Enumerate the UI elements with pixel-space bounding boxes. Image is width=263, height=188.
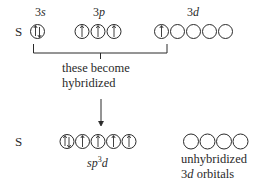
orbital-unhybrid-1	[184, 134, 199, 149]
orbital-sp3d-2	[76, 135, 90, 149]
unhybridized-caption-line2: 3d orbitals	[181, 167, 247, 182]
hybridization-bracket	[34, 44, 168, 59]
element-symbol-top: S	[15, 25, 22, 39]
orbitals-unhybridized-3d	[184, 134, 249, 149]
subshell-label-3d: 3d	[187, 5, 199, 19]
orbital-3p-1	[75, 25, 89, 39]
orbital-unhybrid-4	[233, 134, 248, 149]
bracket-caption-line1: these become	[62, 61, 130, 76]
orbital-unhybrid-3	[217, 134, 232, 149]
down-arrow-icon	[99, 99, 104, 126]
orbital-3p-3	[107, 25, 121, 39]
orbital-sp3d-4	[107, 135, 121, 149]
subshell-label-3s: 3s	[35, 5, 46, 19]
unhybridized-caption-line1: unhybridized	[181, 152, 247, 167]
orbitals-sp3d	[60, 135, 136, 149]
orbital-sp3d-1	[60, 135, 74, 149]
orbital-3s	[31, 25, 45, 39]
element-symbol-bottom: S	[15, 135, 22, 149]
orbital-3d-2	[171, 25, 185, 39]
orbital-3d-5	[219, 25, 233, 39]
orbital-3d-4	[203, 25, 217, 39]
orbital-sp3d-3	[91, 135, 105, 149]
orbital-3p-2	[91, 25, 105, 39]
hybrid-label-sp3d: sp3d	[87, 153, 108, 170]
orbital-3d-1	[155, 25, 169, 39]
bracket-caption-line2: hybridized	[62, 76, 130, 91]
bracket-caption: these become hybridized	[62, 61, 130, 91]
orbitals-3d	[155, 25, 233, 39]
orbital-unhybrid-2	[200, 134, 215, 149]
subshell-label-3p: 3p	[93, 5, 105, 19]
unhybridized-caption: unhybridized 3d orbitals	[181, 152, 247, 182]
orbital-3d-3	[187, 25, 201, 39]
orbitals-3p	[75, 25, 121, 39]
orbital-sp3d-5	[122, 135, 136, 149]
